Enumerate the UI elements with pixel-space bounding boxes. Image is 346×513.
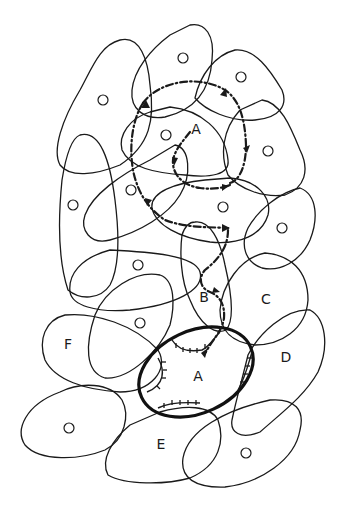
label-f: F	[64, 336, 72, 352]
label-c: C	[261, 291, 271, 307]
label-a-lower: A	[193, 368, 203, 384]
arrow-head-icon	[212, 287, 220, 293]
label-d: D	[281, 349, 292, 365]
hatched-arc-left	[147, 358, 162, 392]
field-labels: A B C F D A E	[64, 121, 291, 452]
field-center-marker	[178, 53, 188, 63]
receptive-field-diagram: A B C F D A E	[0, 0, 346, 513]
field-center-marker	[277, 223, 287, 233]
field-center-marker	[98, 95, 108, 105]
label-e: E	[157, 436, 166, 452]
field-outline	[70, 250, 201, 311]
field-center-marker	[236, 72, 246, 82]
label-a-upper: A	[191, 121, 201, 137]
field-center-marker	[135, 318, 145, 328]
field-center-marker	[241, 448, 251, 458]
field-outline	[21, 385, 125, 457]
field-center-marker	[64, 423, 74, 433]
field-center-marker	[126, 185, 136, 195]
field-center-marker	[263, 146, 273, 156]
field-outline	[60, 134, 118, 297]
field-outline	[152, 178, 269, 243]
field-center-marker	[133, 260, 143, 270]
field-center-marker	[161, 130, 171, 140]
path-left-descent	[131, 103, 228, 228]
label-b: B	[199, 289, 209, 305]
field-center-marker	[218, 202, 228, 212]
field-center-marker	[68, 200, 78, 210]
